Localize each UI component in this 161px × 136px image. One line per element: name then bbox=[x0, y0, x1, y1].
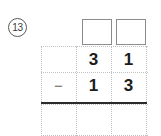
subtrahend-row: − 1 3 bbox=[41, 72, 148, 98]
subtraction-operator-icon: − bbox=[41, 72, 76, 98]
minuend-row: 3 1 bbox=[41, 46, 148, 72]
tens-answer-box[interactable] bbox=[82, 19, 112, 45]
problem-number-badge: 13 bbox=[8, 18, 27, 37]
minuend-tens-digit: 3 bbox=[76, 46, 111, 72]
worksheet-problem: 13 3 1 − 1 3 bbox=[0, 0, 161, 136]
calculation-grid: 3 1 − 1 3 bbox=[41, 46, 148, 136]
subtrahend-tens-digit: 1 bbox=[76, 72, 111, 98]
subtrahend-ones-digit: 3 bbox=[111, 72, 146, 98]
answer-row bbox=[41, 104, 148, 130]
answer-operator-cell bbox=[41, 104, 76, 130]
grid-hline-3 bbox=[41, 135, 148, 136]
minuend-ones-digit: 1 bbox=[111, 46, 146, 72]
answer-box-group bbox=[82, 19, 146, 45]
answer-tens-cell[interactable] bbox=[76, 104, 111, 130]
answer-ones-cell[interactable] bbox=[111, 104, 146, 130]
ones-answer-box[interactable] bbox=[116, 19, 146, 45]
minuend-operator-cell bbox=[41, 46, 76, 72]
